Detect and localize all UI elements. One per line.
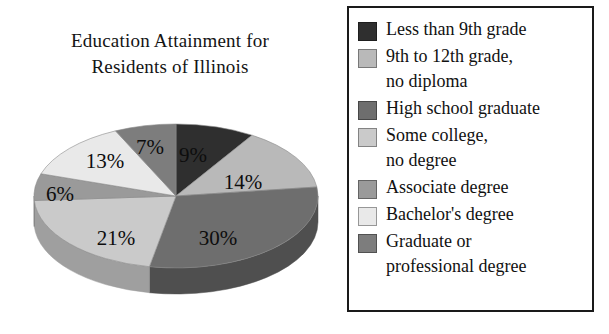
- pie-chart-svg: 9%14%30%21%6%13%7%: [28, 118, 324, 298]
- pie-slice-value-label: 9%: [179, 143, 207, 167]
- chart-title: Education Attainment for Residents of Il…: [0, 28, 340, 80]
- pie-slices: [34, 124, 318, 268]
- chart-title-line-2: Residents of Illinois: [0, 54, 340, 80]
- pie-slice-value-label: 14%: [224, 170, 263, 194]
- legend-item-label: High school graduate: [386, 95, 540, 121]
- legend-item-label: Bachelor's degree: [386, 201, 514, 227]
- legend-swatch-icon: [358, 128, 377, 147]
- legend-item[interactable]: High school graduate: [358, 95, 586, 121]
- legend-swatch-icon: [358, 180, 377, 199]
- legend-item-label: Graduate or professional degree: [386, 228, 526, 279]
- legend-item-label: Associate degree: [386, 174, 508, 200]
- legend: Less than 9th grade9th to 12th grade, no…: [347, 6, 594, 312]
- legend-swatch-icon: [358, 234, 377, 253]
- legend-item[interactable]: Graduate or professional degree: [358, 228, 586, 279]
- legend-swatch-icon: [358, 207, 377, 226]
- legend-swatch-icon: [358, 22, 377, 41]
- legend-item-label: Less than 9th grade: [386, 16, 526, 42]
- pie-slice-value-label: 13%: [86, 149, 125, 173]
- pie-chart: 9%14%30%21%6%13%7%: [28, 118, 324, 298]
- legend-item[interactable]: Some college, no degree: [358, 122, 586, 173]
- legend-item-label: 9th to 12th grade, no diploma: [386, 43, 513, 94]
- legend-item[interactable]: Bachelor's degree: [358, 201, 586, 227]
- pie-slice-value-label: 21%: [97, 226, 136, 250]
- legend-item[interactable]: Less than 9th grade: [358, 16, 586, 42]
- legend-item[interactable]: 9th to 12th grade, no diploma: [358, 43, 586, 94]
- pie-slice-value-label: 7%: [136, 135, 164, 159]
- legend-swatch-icon: [358, 49, 377, 68]
- legend-item-label: Some college, no degree: [386, 122, 488, 173]
- pie-slice-value-label: 6%: [46, 182, 74, 206]
- legend-item[interactable]: Associate degree: [358, 174, 586, 200]
- chart-title-line-1: Education Attainment for: [0, 28, 340, 54]
- pie-slice-value-label: 30%: [199, 226, 238, 250]
- legend-list: Less than 9th grade9th to 12th grade, no…: [358, 16, 586, 279]
- chart-panel: Education Attainment for Residents of Il…: [0, 0, 340, 334]
- legend-swatch-icon: [358, 101, 377, 120]
